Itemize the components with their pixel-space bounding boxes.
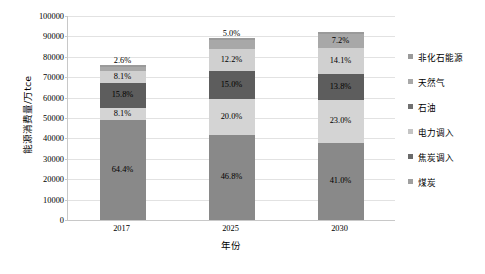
legend: 非化石能源天然气石油电力调入焦炭调入煤炭	[408, 44, 485, 194]
legend-label: 煤炭	[418, 176, 436, 188]
segment-value-label: 8.1%	[114, 110, 131, 118]
y-axis-tick-labels: 1000009000080000700006000050000400003000…	[14, 16, 64, 220]
y-axis-tick-label: 50000	[14, 114, 64, 123]
x-axis-title: 年份	[67, 238, 394, 252]
bar-segment-煤炭: 46.8%	[209, 135, 255, 220]
y-axis-tickmark	[65, 36, 68, 37]
legend-swatch-icon	[408, 179, 413, 184]
segment-value-label: 41.0%	[330, 177, 352, 185]
y-axis-tickmark	[65, 98, 68, 99]
legend-label: 焦炭调入	[418, 151, 454, 163]
segment-value-label: 15.0%	[221, 81, 243, 89]
segment-value-label: 15.8%	[112, 91, 134, 99]
y-axis-tick-label: 40000	[14, 134, 64, 143]
y-axis-tickmark	[65, 200, 68, 201]
x-axis-tick-label: 2025	[196, 224, 266, 233]
y-axis-tick-label: 80000	[14, 52, 64, 61]
bar-segment-焦炭调入: 20.0%	[209, 99, 255, 135]
legend-swatch-icon	[408, 79, 413, 84]
y-axis-tickmark	[65, 16, 68, 17]
y-axis-tick-label: 90000	[14, 32, 64, 41]
bar-segment-焦炭调入: 23.0%	[318, 100, 364, 143]
bar-segment-石油: 12.2%	[209, 49, 255, 71]
legend-label: 非化石能源	[418, 51, 463, 63]
y-axis-tickmark	[65, 159, 68, 160]
legend-label: 天然气	[418, 76, 445, 88]
y-axis-tickmark	[65, 57, 68, 58]
gridline	[68, 16, 395, 17]
x-axis-tick-labels: 201720252030	[67, 224, 394, 238]
legend-item-电力调入[interactable]: 电力调入	[408, 119, 485, 144]
segment-value-label: 64.4%	[112, 166, 134, 174]
y-axis-tick-label: 0	[14, 216, 64, 225]
y-axis-tickmark	[65, 118, 68, 119]
bar-segment-天然气: 5.0%	[209, 40, 255, 49]
y-axis-tick-label: 70000	[14, 73, 64, 82]
x-axis-tick-label: 2030	[305, 224, 375, 233]
y-axis-tick-label: 60000	[14, 93, 64, 102]
segment-value-label: 20.0%	[221, 113, 243, 121]
legend-item-非化石能源[interactable]: 非化石能源	[408, 44, 485, 69]
segment-value-label: 7.2%	[332, 37, 349, 45]
segment-value-label: 8.1%	[114, 73, 131, 81]
legend-swatch-icon	[408, 104, 413, 109]
legend-label: 石油	[418, 101, 436, 113]
legend-swatch-icon	[408, 129, 413, 134]
y-axis-tickmark	[65, 220, 68, 221]
stacked-bar-chart: 能源消费量/万tce 10000090000800007000060000500…	[0, 0, 485, 274]
legend-swatch-icon	[408, 54, 413, 59]
legend-swatch-icon	[408, 154, 413, 159]
bar-2030: 7.2%14.1%13.8%23.0%41.0%	[318, 32, 364, 220]
legend-label: 电力调入	[418, 126, 454, 138]
y-axis-tick-label: 100000	[14, 12, 64, 21]
bar-segment-煤炭: 64.4%	[100, 120, 146, 220]
legend-item-煤炭[interactable]: 煤炭	[408, 169, 485, 194]
legend-item-天然气[interactable]: 天然气	[408, 69, 485, 94]
legend-item-石油[interactable]: 石油	[408, 94, 485, 119]
bar-segment-电力调入: 15.8%	[100, 83, 146, 107]
segment-value-label: 5.0%	[223, 30, 240, 38]
bar-segment-石油: 8.1%	[100, 71, 146, 84]
segment-value-label: 46.8%	[221, 173, 243, 181]
legend-item-焦炭调入[interactable]: 焦炭调入	[408, 144, 485, 169]
x-axis-tick-label: 2017	[87, 224, 157, 233]
y-axis-tickmark	[65, 77, 68, 78]
segment-value-label: 12.2%	[221, 56, 243, 64]
y-axis-tickmark	[65, 179, 68, 180]
y-axis-tick-label: 30000	[14, 154, 64, 163]
segment-value-label: 2.6%	[114, 57, 131, 65]
y-axis-tickmark	[65, 138, 68, 139]
bar-2025: 5.0%12.2%15.0%20.0%46.8%	[209, 38, 255, 220]
bar-segment-天然气: 7.2%	[318, 34, 364, 48]
bar-segment-电力调入: 15.0%	[209, 71, 255, 98]
bar-segment-石油: 14.1%	[318, 48, 364, 74]
bar-segment-电力调入: 13.8%	[318, 74, 364, 100]
bar-2017: 2.6%8.1%15.8%8.1%64.4%	[100, 65, 146, 220]
segment-value-label: 23.0%	[330, 117, 352, 125]
bar-segment-焦炭调入: 8.1%	[100, 108, 146, 121]
y-axis-tick-label: 20000	[14, 175, 64, 184]
bar-segment-煤炭: 41.0%	[318, 143, 364, 220]
y-axis-tick-label: 10000	[14, 195, 64, 204]
plot-area: 2.6%8.1%15.8%8.1%64.4%5.0%12.2%15.0%20.0…	[67, 16, 395, 221]
segment-value-label: 13.8%	[330, 83, 352, 91]
segment-value-label: 14.1%	[330, 57, 352, 65]
